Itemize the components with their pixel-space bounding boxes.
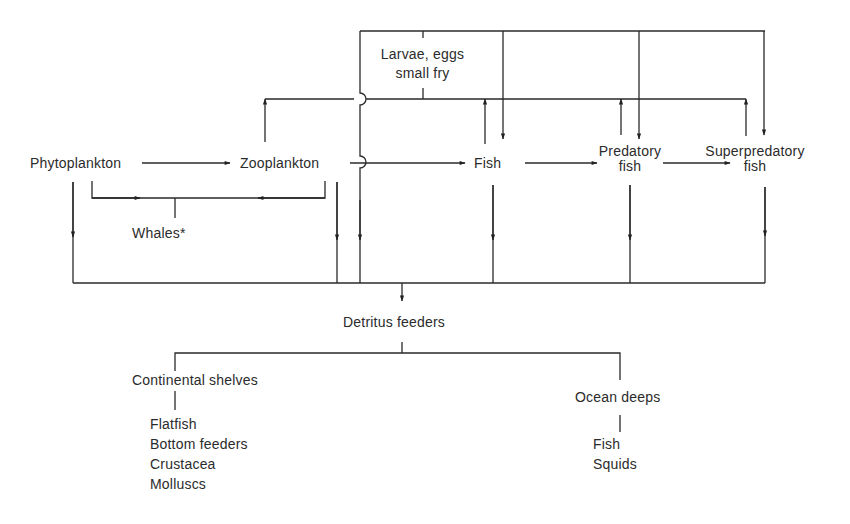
larvae-line2: small fry xyxy=(370,64,475,83)
node-superpredatory-fish: Superpredatory fish xyxy=(690,144,820,174)
continental-shelves-list: Flatfish Bottom feeders Crustacea Mollus… xyxy=(150,414,248,494)
node-fish: Fish xyxy=(474,156,501,171)
superpredatory-fish-line2: fish xyxy=(690,159,820,174)
list-item: Flatfish xyxy=(150,414,248,434)
node-continental-shelves: Continental shelves xyxy=(132,373,258,388)
list-item: Squids xyxy=(593,454,637,474)
predatory-fish-line2: fish xyxy=(590,159,670,174)
node-detritus-feeders: Detritus feeders xyxy=(343,315,445,330)
predatory-fish-line1: Predatory xyxy=(590,144,670,159)
node-phytoplankton: Phytoplankton xyxy=(30,156,121,171)
list-item: Crustacea xyxy=(150,454,248,474)
list-item: Fish xyxy=(593,434,637,454)
node-zooplankton: Zooplankton xyxy=(240,156,319,171)
node-predatory-fish: Predatory fish xyxy=(590,144,670,174)
node-larvae-eggs-small-fry: Larvae, eggs small fry xyxy=(370,45,475,83)
ocean-deeps-list: Fish Squids xyxy=(593,434,637,474)
node-ocean-deeps: Ocean deeps xyxy=(575,390,660,405)
larvae-left-line xyxy=(360,31,366,283)
list-item: Molluscs xyxy=(150,474,248,494)
list-item: Bottom feeders xyxy=(150,434,248,454)
superpredatory-fish-line1: Superpredatory xyxy=(690,144,820,159)
larvae-line1: Larvae, eggs xyxy=(370,45,475,64)
node-whales: Whales* xyxy=(132,226,186,241)
